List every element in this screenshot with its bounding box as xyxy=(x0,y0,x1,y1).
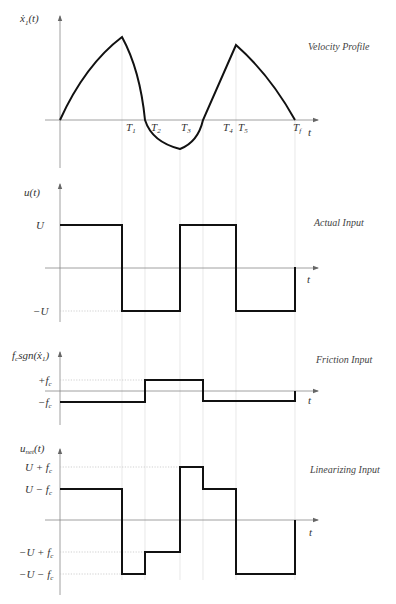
level-minus-fc-label: −fc xyxy=(38,396,52,410)
velocity-y-label: ẋ1(t) xyxy=(19,12,39,27)
level-minus-U-minus-fc-label: −U − fc xyxy=(19,568,54,582)
velocity-profile-title: Velocity Profile xyxy=(308,41,370,52)
level-minus-U-plus-fc-label: −U + fc xyxy=(19,546,54,560)
actual-input-t-label: t xyxy=(307,273,311,285)
t1-label: T1 xyxy=(126,121,136,135)
velocity-profile-panel: ẋ1(t) Velocity Profile T1 T2 T3 T4 T5 Tf… xyxy=(19,12,370,168)
velocity-t-axis-label: t xyxy=(308,126,312,138)
level-U-minus-fc-label: U − fc xyxy=(25,483,53,497)
linearizing-input-title: Linearizing Input xyxy=(309,464,380,475)
linearizing-y-label: unet(t) xyxy=(20,442,45,456)
control-input-diagram: ẋ1(t) Velocity Profile T1 T2 T3 T4 T5 Tf… xyxy=(0,0,396,604)
time-guide-lines xyxy=(122,37,295,580)
level-U-plus-fc-label: U + fc xyxy=(25,461,53,475)
t4-label: T4 xyxy=(223,121,233,135)
friction-input-title: Friction Input xyxy=(315,354,373,365)
actual-input-y-label: u(t) xyxy=(24,186,40,199)
friction-t-label: t xyxy=(308,394,312,406)
friction-input-panel: fcsgn(ẋ1) +fc −fc Friction Input t xyxy=(12,349,373,425)
linearizing-input-panel: unet(t) U + fc U − fc −U + fc −U − fc Li… xyxy=(19,442,380,595)
t2-label: T2 xyxy=(151,121,161,135)
tf-label: Tf xyxy=(293,121,302,135)
linearizing-t-label: t xyxy=(309,526,313,538)
level-U-label: U xyxy=(36,219,45,231)
velocity-curve xyxy=(60,37,295,149)
actual-input-panel: u(t) U −U Actual Input t xyxy=(24,184,364,322)
actual-input-title: Actual Input xyxy=(313,217,364,228)
linearizing-input-signal xyxy=(60,467,295,574)
level-minus-U-label: −U xyxy=(33,305,49,317)
level-plus-fc-label: +fc xyxy=(38,374,52,388)
t5-label: T5 xyxy=(238,121,248,135)
friction-y-label: fcsgn(ẋ1) xyxy=(12,349,50,363)
t3-label: T3 xyxy=(181,121,191,135)
